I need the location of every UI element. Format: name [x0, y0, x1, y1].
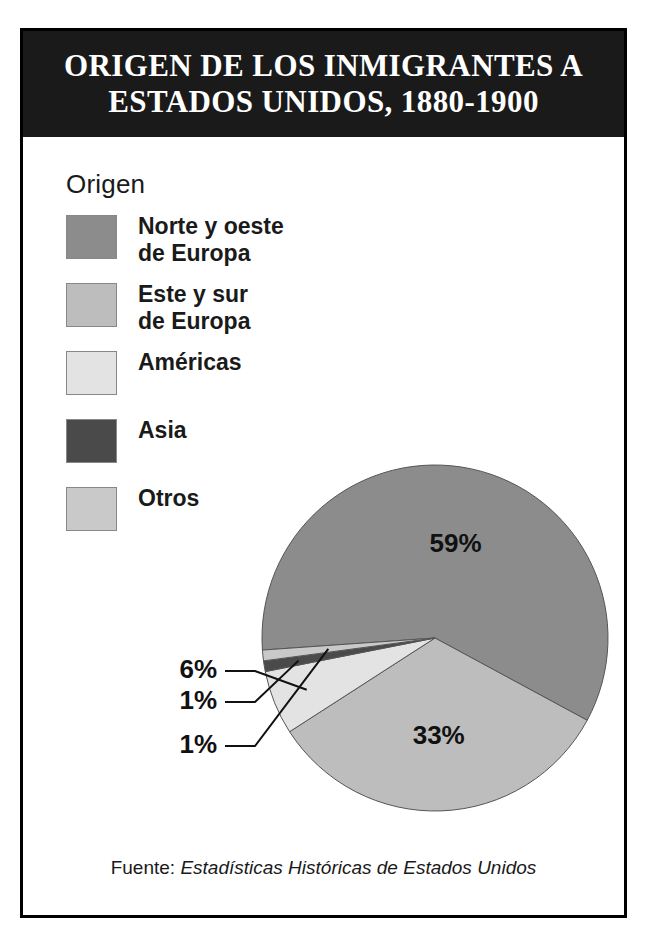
- legend-item-label: Norte y oeste de Europa: [138, 212, 284, 267]
- chart-title-banner: ORIGEN DE LOS INMIGRANTES A ESTADOS UNID…: [23, 31, 624, 137]
- legend-swatch-icon: [66, 419, 117, 463]
- legend-item-norte-y-oeste-de-europa[interactable]: Norte y oeste de Europa: [66, 212, 366, 268]
- legend-swatch-icon: [66, 487, 117, 531]
- legend-item-asia[interactable]: Asia: [66, 416, 366, 472]
- pie-callout-group: 6%1%1%: [179, 649, 328, 759]
- legend-swatch-icon: [66, 215, 117, 259]
- pie-callout-label: 6%: [179, 654, 217, 684]
- legend-swatch-icon: [66, 283, 117, 327]
- source-note: Fuente: Estadísticas Históricas de Estad…: [23, 857, 624, 879]
- pie-slice-label: 59%: [429, 528, 481, 558]
- legend-title: Origen: [66, 169, 366, 200]
- pie-slice[interactable]: [262, 638, 435, 661]
- legend-item-este-y-sur-de-europa[interactable]: Este y sur de Europa: [66, 280, 366, 336]
- pie-callout-leader-line: [225, 649, 328, 746]
- legend-item-label: Otros: [138, 484, 199, 512]
- pie-slice[interactable]: [290, 638, 588, 811]
- pie-callout-leader-line: [225, 671, 307, 690]
- legend-item-americas[interactable]: Américas: [66, 348, 366, 404]
- chart-legend: Origen Norte y oeste de Europa Este y su…: [66, 169, 366, 552]
- legend-swatch-icon: [66, 351, 117, 395]
- legend-item-label: Américas: [138, 348, 242, 376]
- legend-item-label: Este y sur de Europa: [138, 280, 250, 335]
- pie-slice[interactable]: [265, 638, 435, 732]
- source-title: Estadísticas Históricas de Estados Unido…: [180, 857, 536, 878]
- legend-item-label: Asia: [138, 416, 187, 444]
- pie-callout-label: 1%: [179, 729, 217, 759]
- pie-slice[interactable]: [264, 638, 435, 672]
- pie-slice-label: 33%: [413, 720, 465, 750]
- pie-inside-label-group: 59%33%: [413, 528, 482, 750]
- pie-callout-leader-line: [225, 661, 299, 702]
- source-prefix: Fuente:: [111, 857, 181, 878]
- chart-figure: ORIGEN DE LOS INMIGRANTES A ESTADOS UNID…: [20, 28, 627, 918]
- pie-callout-label: 1%: [179, 685, 217, 715]
- page-title: ORIGEN DE LOS INMIGRANTES A ESTADOS UNID…: [54, 48, 593, 121]
- legend-item-otros[interactable]: Otros: [66, 484, 366, 540]
